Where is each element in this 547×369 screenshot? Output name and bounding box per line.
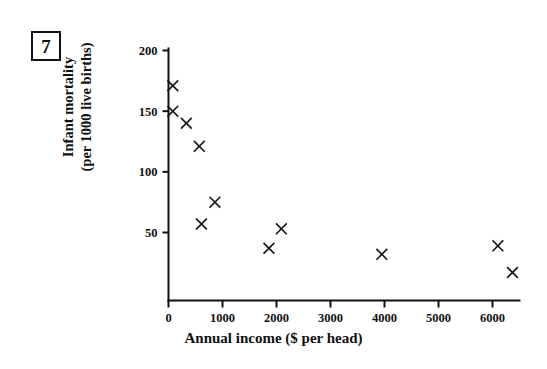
data-point-marker xyxy=(276,223,287,234)
x-tick-label: 3000 xyxy=(318,311,343,325)
y-axis-title: Infant mortality (per 1000 live births) xyxy=(55,7,101,207)
axes xyxy=(169,49,520,301)
data-point-marker xyxy=(181,118,192,129)
data-point-marker xyxy=(507,267,518,278)
y-tick-label: 100 xyxy=(139,165,158,179)
scatter-plot-figure: 7 501001502000100020003000400050006000 I… xyxy=(0,0,547,369)
x-axis-title: Annual income ($ per head) xyxy=(0,331,547,346)
y-tick-label: 50 xyxy=(145,226,158,240)
data-point-marker xyxy=(493,240,504,251)
data-point-marker xyxy=(264,243,275,254)
data-point-marker xyxy=(196,219,207,230)
x-tick-label: 2000 xyxy=(264,311,289,325)
data-point-marker xyxy=(376,249,387,260)
data-point-marker xyxy=(194,141,205,152)
x-tick-label: 1000 xyxy=(210,311,235,325)
y-axis-title-line-1: Infant mortality xyxy=(60,57,78,157)
data-point-marker xyxy=(210,197,221,208)
x-tick-label: 6000 xyxy=(480,311,505,325)
axis-ticks xyxy=(163,51,493,308)
axis-tick-labels: 501001502000100020003000400050006000 xyxy=(139,44,505,325)
y-axis-title-line-2: (per 1000 live births) xyxy=(78,43,96,172)
x-tick-label: 4000 xyxy=(372,311,397,325)
y-tick-label: 150 xyxy=(139,105,158,119)
data-points xyxy=(167,80,517,278)
x-tick-label: 0 xyxy=(165,311,171,325)
x-tick-label: 5000 xyxy=(426,311,451,325)
y-tick-label: 200 xyxy=(139,44,158,58)
